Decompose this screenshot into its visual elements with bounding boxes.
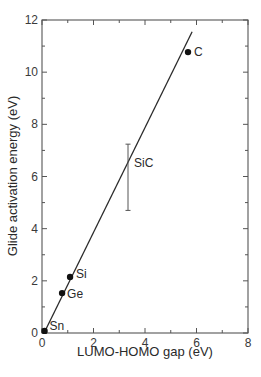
data-point-marker: [185, 49, 191, 55]
axis-ticks: [42, 20, 248, 333]
error-bars: SiC: [126, 144, 154, 210]
plot-border: [42, 20, 248, 333]
data-point-marker: [59, 290, 65, 296]
y-tick-label: 12: [25, 13, 39, 27]
y-tick-label: 2: [31, 274, 38, 288]
y-tick-label: 6: [31, 170, 38, 184]
data-point-label: Ge: [67, 287, 83, 301]
x-tick-label: 8: [245, 336, 252, 350]
y-tick-label: 4: [31, 222, 38, 236]
y-tick-label: 0: [31, 326, 38, 340]
data-points: SnGeSiC: [41, 45, 203, 334]
y-tick-label: 10: [25, 65, 39, 79]
y-tick-label: 8: [31, 117, 38, 131]
data-point-marker: [41, 328, 47, 334]
x-axis-title: LUMO-HOMO gap (eV): [77, 344, 213, 359]
data-point-label: Sn: [50, 319, 65, 333]
y-axis-title: Glide activation energy (eV): [5, 96, 20, 256]
error-bar-label: SiC: [134, 156, 154, 170]
data-point-label: C: [194, 45, 203, 59]
data-point-marker: [67, 274, 73, 280]
chart: 02468024681012 SiC SnGeSiC LUMO-HOMO gap…: [0, 0, 261, 377]
plot-frame: [42, 20, 248, 333]
data-point-label: Si: [76, 267, 87, 281]
tick-labels: 02468024681012: [25, 13, 252, 350]
x-tick-label: 0: [39, 336, 46, 350]
